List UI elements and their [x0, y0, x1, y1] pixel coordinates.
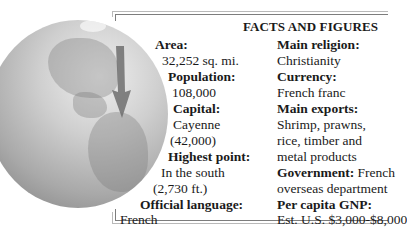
facts-title: FACTS AND FIGURES	[243, 19, 378, 35]
official-language-value: French	[120, 212, 158, 228]
government-label: Government:	[277, 165, 354, 180]
top-left-tick	[115, 14, 116, 21]
currency-value: French franc	[277, 85, 346, 101]
area-label: Area:	[155, 37, 188, 53]
gnp-label: Per capita GNP:	[277, 197, 372, 213]
highest-point-label: Highest point:	[168, 149, 250, 165]
exports-value-2: rice, timber and	[277, 133, 362, 149]
top-inner-rule	[115, 14, 388, 15]
exports-label: Main exports:	[277, 101, 358, 117]
top-outer-rule	[112, 11, 388, 12]
religion-value: Christianity	[277, 53, 341, 69]
official-language-label: Official language:	[140, 197, 243, 213]
capital-value: Cayenne	[173, 117, 220, 133]
bottom-left-tick	[115, 209, 116, 220]
capital-label: Capital:	[173, 101, 220, 117]
government-value-inline: French	[358, 165, 396, 180]
area-value: 32,252 sq. mi.	[162, 53, 239, 69]
population-label: Population:	[168, 69, 236, 85]
religion-label: Main religion:	[277, 37, 360, 53]
exports-value-1: Shrimp, prawns,	[277, 117, 366, 133]
government-value: overseas department	[277, 181, 388, 197]
top-left-outer-tick	[112, 11, 113, 17]
gnp-value: Est. U.S. $3,000-$8,000	[277, 212, 407, 228]
government-line: Government: French	[277, 165, 395, 181]
currency-label: Currency:	[277, 69, 337, 85]
population-value: 108,000	[172, 85, 216, 101]
highest-point-value: In the south	[161, 165, 225, 181]
exports-value-3: metal products	[277, 149, 357, 165]
bottom-left-outer-tick	[112, 212, 113, 223]
highest-point-elevation: (2,730 ft.)	[153, 181, 207, 197]
capital-population: (42,000)	[170, 133, 216, 149]
